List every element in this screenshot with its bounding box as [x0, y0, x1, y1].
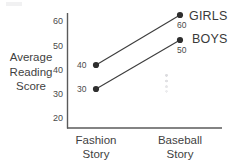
scan-artifact-smudge [163, 73, 170, 93]
x-category-baseball-line-2: Story [135, 147, 225, 161]
series-label-boys: BOYS [192, 33, 228, 46]
x-category-baseball-line-1: Baseball [135, 133, 225, 147]
reading-score-line-chart: Average Reading Score 60 50 40 30 20 40 … [0, 0, 235, 166]
data-point-boys-baseball [177, 37, 183, 43]
x-category-label-baseball: Baseball Story [135, 133, 225, 161]
point-label-boys-fashion: 30 [77, 85, 86, 94]
point-label-boys-baseball: 50 [177, 46, 186, 55]
data-point-girls-baseball [177, 12, 183, 18]
x-category-fashion-line-1: Fashion [51, 133, 141, 147]
x-category-label-fashion: Fashion Story [51, 133, 141, 161]
x-category-fashion-line-2: Story [51, 147, 141, 161]
data-point-girls-fashion [93, 62, 99, 68]
series-line-girls [96, 15, 180, 65]
data-point-boys-fashion [93, 86, 99, 92]
series-label-girls: GIRLS [189, 10, 228, 23]
point-label-girls-fashion: 40 [77, 61, 86, 70]
point-label-girls-baseball: 60 [177, 21, 186, 30]
